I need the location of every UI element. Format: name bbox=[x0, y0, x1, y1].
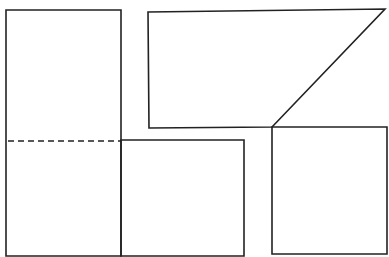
upper-right-trapezoid bbox=[148, 9, 385, 128]
lower-right-rectangle bbox=[272, 127, 387, 254]
net-diagram bbox=[0, 0, 389, 257]
left-tall-rectangle bbox=[6, 10, 121, 256]
lower-middle-rectangle bbox=[121, 140, 244, 256]
